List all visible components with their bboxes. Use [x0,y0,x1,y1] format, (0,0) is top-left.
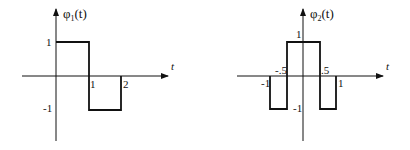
phi2-axis-var: t [386,60,390,72]
phi2-tick-x-neg1: -1 [261,77,270,89]
phi1-tick-x1: 1 [90,78,96,90]
phi2-tick-y-neg: -1 [293,102,302,114]
diagram-canvas: φ1(t) t 1 -1 1 2 φ2(t) t 1 -1 -1 -.5 .5 … [0,0,410,150]
phi2-tick-x-half: .5 [321,64,330,76]
phi1-tick-x2: 2 [123,78,129,90]
phi2-tick-x1: 1 [338,77,344,89]
phi2-diagram: φ2(t) t 1 -1 -1 -.5 .5 1 [237,6,390,141]
phi1-tick-y-pos: 1 [46,36,52,48]
phi2-title: φ2(t) [310,6,334,23]
phi1-title: φ1(t) [63,6,87,23]
phi1-axis-var: t [171,60,175,72]
phi2-tick-y-pos: 1 [296,28,302,40]
phi1-tick-y-neg: -1 [43,102,52,114]
phi2-tick-x-neg-half: -.5 [275,64,287,76]
phi1-diagram: φ1(t) t 1 -1 1 2 [22,6,175,141]
